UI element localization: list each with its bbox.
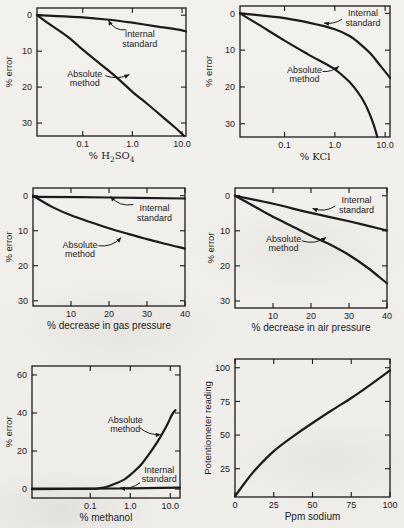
x-tick-label: 30 [344,311,354,321]
x-tick-label: 30 [142,309,152,319]
y-tick-label: 10 [220,226,230,236]
y-axis-label: % error [3,231,14,262]
y-axis-label: % error [3,56,14,87]
curve-absolute-method [37,15,184,136]
methanol-error-svg: 0.11.010.00204060% methanol% errorAbsolu… [0,352,202,528]
chart-methanol-error: 0.11.010.00204060% methanol% errorAbsolu… [0,352,202,528]
x-tick-label: 0.1 [84,501,97,511]
y-tick-label: 75 [220,397,230,407]
x-tick-label: 10.0 [376,140,394,150]
y-tick-label: 0 [225,191,230,201]
x-tick-label: 10 [66,309,76,319]
gas-pressure-error-svg: 102030400102030% decrease in gas pressur… [0,176,202,352]
y-tick-label: 20 [18,261,28,271]
y-tick-label: 10 [22,46,32,56]
x-tick-label: 50 [307,500,317,510]
y-tick-label: 0 [230,9,235,19]
x-tick-label: 1.0 [329,140,342,150]
annotation-arrowhead [313,208,319,212]
chart-air-pressure-error: 102030400102030% decrease in air pressur… [202,176,404,352]
annotation-absolute-method: Absolutemethod [266,234,301,254]
annotation-absolute-method: Absolutemethod [63,240,98,260]
x-tick-label: 20 [306,311,316,321]
annotation-absolute-method: Absolutemethod [108,415,143,435]
y-tick-label: 10 [225,45,235,55]
x-axis-label: % decrease in gas pressure [47,320,171,331]
y-tick-label: 50 [220,430,230,440]
y-tick-label: 30 [220,296,230,306]
chart-h2so4-error: 0.11.010.00102030% H2SO4% errorInternals… [0,0,202,176]
annotation-internal-standard: Internalstandard [122,29,157,49]
x-tick-label: 40 [180,309,190,319]
chart-sodium-calibration: 0255075100255075100Ppm sodiumPotentiomet… [202,352,404,528]
y-axis-label: % error [3,416,14,447]
annotation-internal-standard: Internalstandard [137,203,172,223]
y-tick-label: 60 [17,370,27,380]
annotation-internal-standard: Internalstandard [339,195,374,215]
x-axis-label: % H2SO4 [88,150,134,164]
x-tick-label: 40 [382,311,392,321]
y-tick-label: 30 [18,296,28,306]
x-tick-label: 1.0 [124,501,137,511]
y-tick-label: 40 [17,408,27,418]
annotation-arrow [98,238,121,246]
y-tick-label: 10 [18,226,28,236]
y-tick-label: 20 [225,82,235,92]
x-axis-label: Ppm sodium [285,511,341,522]
curve-internal-standard [33,197,185,199]
h2so4-error-svg: 0.11.010.00102030% H2SO4% errorInternals… [0,0,202,176]
y-tick-label: 20 [22,82,32,92]
chart-kcl-error: 0.11.010.00102030% KCl% errorInternalsta… [202,0,404,176]
y-axis-label: Potentiometer reading [202,381,213,474]
x-tick-label: 25 [269,500,279,510]
sodium-calibration-svg: 0255075100255075100Ppm sodiumPotentiomet… [202,352,404,528]
y-tick-label: 30 [225,119,235,129]
kcl-error-svg: 0.11.010.00102030% KCl% errorInternalsta… [202,0,404,176]
y-tick-label: 0 [23,191,28,201]
x-tick-label: 1.0 [126,139,139,149]
x-axis-label: % KCl [300,151,331,162]
x-tick-label: 0.1 [76,139,89,149]
annotation-internal-standard: Internalstandard [345,8,380,28]
annotation-internal-standard: Internalstandard [142,465,177,485]
x-tick-label: 0 [232,500,237,510]
y-tick-label: 0 [27,10,32,20]
y-tick-label: 25 [220,464,230,474]
x-axis-label: % decrease in air pressure [252,322,371,333]
charts-grid: 0.11.010.00102030% H2SO4% errorInternals… [0,0,404,528]
x-tick-label: 10.0 [173,139,191,149]
x-tick-label: 20 [104,309,114,319]
y-tick-label: 20 [220,261,230,271]
scanned-figure-page: 0.11.010.00102030% H2SO4% errorInternals… [0,0,404,528]
annotation-absolute-method: Absolutemethod [287,65,322,85]
curve-potentiometer-reading [235,370,390,496]
x-tick-label: 0.1 [278,140,291,150]
y-tick-label: 100 [215,363,230,373]
plot-frame [235,359,390,497]
y-tick-label: 30 [22,118,32,128]
x-tick-label: 10.0 [162,501,180,511]
y-axis-label: % error [205,232,216,263]
annotation-absolute-method: Absolutemethod [67,69,102,89]
air-pressure-error-svg: 102030400102030% decrease in air pressur… [202,176,404,352]
x-tick-label: 10 [268,311,278,321]
x-tick-label: 100 [382,500,397,510]
y-tick-label: 20 [17,446,27,456]
x-tick-label: 75 [346,500,356,510]
y-axis-label: % error [203,56,214,87]
y-tick-label: 0 [22,484,27,494]
chart-gas-pressure-error: 102030400102030% decrease in gas pressur… [0,176,202,352]
x-axis-label: % methanol [80,512,133,523]
